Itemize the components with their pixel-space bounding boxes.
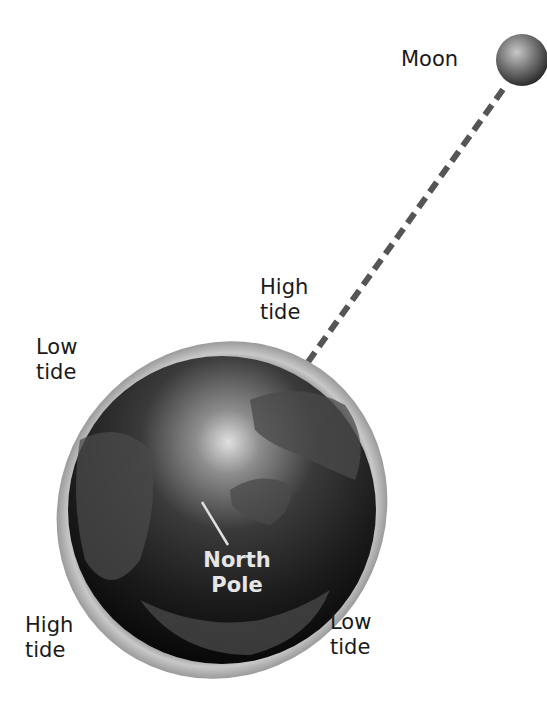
label-line: High	[25, 613, 73, 638]
label-line: tide	[260, 300, 308, 325]
north-pole-label: North Pole	[192, 548, 282, 598]
moon	[496, 34, 547, 86]
label-line: Low	[36, 335, 77, 360]
earth-moon-line	[308, 84, 507, 362]
label-line: Low	[330, 610, 371, 635]
label-line: Pole	[192, 573, 282, 598]
low-tide-left-label: Low tide	[36, 335, 77, 385]
label-line: tide	[330, 635, 371, 660]
label-line: tide	[36, 360, 77, 385]
low-tide-right-label: Low tide	[330, 610, 371, 660]
moon-label: Moon	[401, 47, 458, 72]
label-line: North	[192, 548, 282, 573]
tide-diagram	[0, 0, 547, 705]
high-tide-bottom-label: High tide	[25, 613, 73, 663]
high-tide-top-label: High tide	[260, 275, 308, 325]
label-line: tide	[25, 638, 73, 663]
label-line: High	[260, 275, 308, 300]
